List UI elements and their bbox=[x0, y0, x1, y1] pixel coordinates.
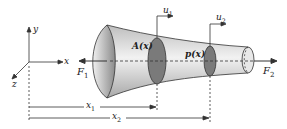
axis-label-z: z bbox=[12, 80, 17, 89]
force-arrow-right bbox=[254, 59, 277, 64]
displacement-label-u1: u1 bbox=[163, 6, 173, 17]
load-label: p(x) bbox=[185, 50, 205, 59]
coordinate-axes bbox=[12, 27, 63, 79]
axis-label-x: x bbox=[64, 57, 69, 66]
area-label: A(x) bbox=[132, 42, 153, 51]
displacement-u1 bbox=[157, 14, 173, 38]
dimension-label-x1: x1 bbox=[86, 101, 95, 112]
force-label-f1: F1 bbox=[77, 67, 88, 80]
right-end-cap bbox=[242, 47, 254, 73]
tapered-bar-diagram bbox=[0, 0, 287, 129]
displacement-u2 bbox=[210, 22, 226, 46]
bar-body bbox=[107, 25, 248, 98]
dimension-label-x2: x2 bbox=[112, 112, 121, 123]
axis-label-y: y bbox=[33, 25, 38, 34]
force-label-f2: F2 bbox=[263, 66, 274, 79]
displacement-label-u2: u2 bbox=[216, 13, 226, 24]
